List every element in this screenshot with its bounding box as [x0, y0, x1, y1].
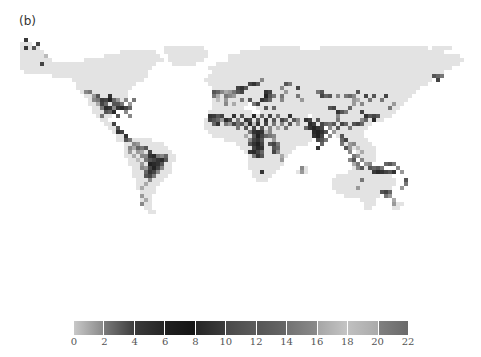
- colorbar-segment: [165, 321, 194, 335]
- colorbar-tick-label: 18: [341, 336, 354, 347]
- colorbar: [74, 321, 408, 335]
- colorbar-tick-labels: 0246810121416182022: [74, 336, 408, 350]
- colorbar-tick-label: 20: [371, 336, 384, 347]
- colorbar-tick-label: 4: [132, 336, 138, 347]
- colorbar-tick-label: 12: [250, 336, 263, 347]
- colorbar-segment: [74, 321, 103, 335]
- colorbar-segment: [379, 321, 408, 335]
- colorbar-tick-label: 10: [219, 336, 232, 347]
- colorbar-segment: [287, 321, 316, 335]
- colorbar-segment: [135, 321, 164, 335]
- colorbar-segment: [226, 321, 255, 335]
- colorbar-tick-label: 22: [402, 336, 415, 347]
- colorbar-segment: [348, 321, 377, 335]
- colorbar-tick-label: 14: [280, 336, 293, 347]
- colorbar-tick-label: 0: [71, 336, 77, 347]
- colorbar-tick-label: 6: [162, 336, 168, 347]
- colorbar-tick-label: 2: [101, 336, 107, 347]
- colorbar-segment: [196, 321, 225, 335]
- world-grid-map: [0, 0, 481, 310]
- colorbar-tick-label: 16: [311, 336, 324, 347]
- colorbar-segment: [318, 321, 347, 335]
- colorbar-tick-label: 8: [192, 336, 198, 347]
- colorbar-segment: [257, 321, 286, 335]
- colorbar-segment: [104, 321, 133, 335]
